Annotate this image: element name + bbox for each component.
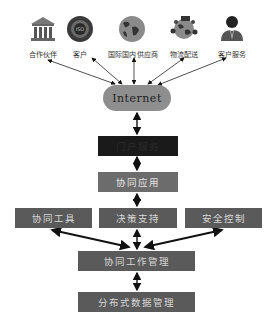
node-label-customers: 客户 xyxy=(73,49,87,59)
node-label-suppliers: 国际国内供应商 xyxy=(108,49,158,59)
globe-icon xyxy=(118,15,146,43)
svg-text:ISO: ISO xyxy=(76,26,85,32)
collab-work-mgmt-box: 协同工作管理 xyxy=(78,251,195,271)
iso-badge-icon: ISO xyxy=(66,15,94,43)
internet-node: Internet xyxy=(103,85,171,111)
portal-layer-box: 门户服务 xyxy=(98,136,178,156)
node-label-customer-service: 客户服务 xyxy=(218,49,247,59)
service-person-icon xyxy=(218,14,246,42)
node-label-partners: 合作伙伴 xyxy=(29,49,58,59)
distributed-data-mgmt-box: 分布式数据管理 xyxy=(78,292,195,312)
decision-support-box: 决策支持 xyxy=(99,208,177,228)
security-control-box: 安全控制 xyxy=(185,208,262,228)
collab-app-box: 协同应用 xyxy=(98,172,178,192)
collab-tools-box: 协同工具 xyxy=(15,208,92,228)
node-label-logistics: 物流配送 xyxy=(170,49,199,59)
bank-building-icon xyxy=(29,15,57,43)
globe-logistics-icon xyxy=(170,14,198,42)
